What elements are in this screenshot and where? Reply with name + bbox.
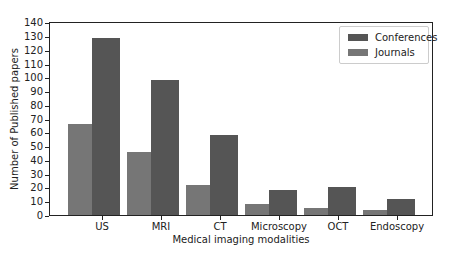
x-tick-label: OCT xyxy=(328,221,349,232)
bar-conferences-us xyxy=(92,38,120,215)
bar-journals-ct xyxy=(186,185,210,215)
y-tick-mark xyxy=(45,216,49,217)
x-tick-mark xyxy=(338,216,339,220)
y-tick-label: 20 xyxy=(13,183,43,193)
x-tick-label: MRI xyxy=(152,221,171,232)
legend-label: Conferences xyxy=(375,32,437,43)
legend-swatch xyxy=(348,34,368,41)
x-tick-mark xyxy=(161,216,162,220)
y-tick-label: 80 xyxy=(13,101,43,111)
x-tick-label: CT xyxy=(213,221,226,232)
bar-conferences-mri xyxy=(151,80,179,215)
bar-conferences-endoscopy xyxy=(387,199,415,216)
bar-conferences-ct xyxy=(210,135,238,215)
bar-journals-endoscopy xyxy=(363,210,387,216)
y-tick-label: 10 xyxy=(13,197,43,207)
bar-journals-mri xyxy=(127,152,151,215)
y-tick-label: 0 xyxy=(13,211,43,221)
y-tick-label: 110 xyxy=(13,60,43,70)
y-tick-label: 60 xyxy=(13,128,43,138)
legend-swatch xyxy=(348,49,368,56)
x-tick-mark xyxy=(102,216,103,220)
x-tick-label: Microscopy xyxy=(251,221,307,232)
x-tick-label: Endoscopy xyxy=(370,221,424,232)
bar-journals-oct xyxy=(304,208,328,215)
y-tick-label: 30 xyxy=(13,170,43,180)
y-tick-label: 100 xyxy=(13,73,43,83)
y-tick-label: 140 xyxy=(13,18,43,28)
legend-item-journals: Journals xyxy=(348,46,415,58)
bar-conferences-oct xyxy=(328,187,356,215)
y-tick-label: 90 xyxy=(13,87,43,97)
bar-chart: Number of Published papers 0102030405060… xyxy=(0,0,449,256)
legend: ConferencesJournals xyxy=(339,26,429,64)
x-tick-mark xyxy=(397,216,398,220)
y-tick-label: 120 xyxy=(13,46,43,56)
y-tick-label: 130 xyxy=(13,32,43,42)
legend-label: Journals xyxy=(375,47,415,58)
x-tick-mark xyxy=(220,216,221,220)
bar-journals-us xyxy=(68,124,92,215)
x-tick-label: US xyxy=(95,221,109,232)
bar-journals-microscopy xyxy=(245,204,269,215)
x-axis-label: Medical imaging modalities xyxy=(172,234,309,245)
y-tick-label: 70 xyxy=(13,115,43,125)
y-tick-label: 40 xyxy=(13,156,43,166)
x-tick-mark xyxy=(279,216,280,220)
y-tick-label: 50 xyxy=(13,142,43,152)
bar-conferences-microscopy xyxy=(269,190,297,215)
legend-item-conferences: Conferences xyxy=(348,31,437,43)
